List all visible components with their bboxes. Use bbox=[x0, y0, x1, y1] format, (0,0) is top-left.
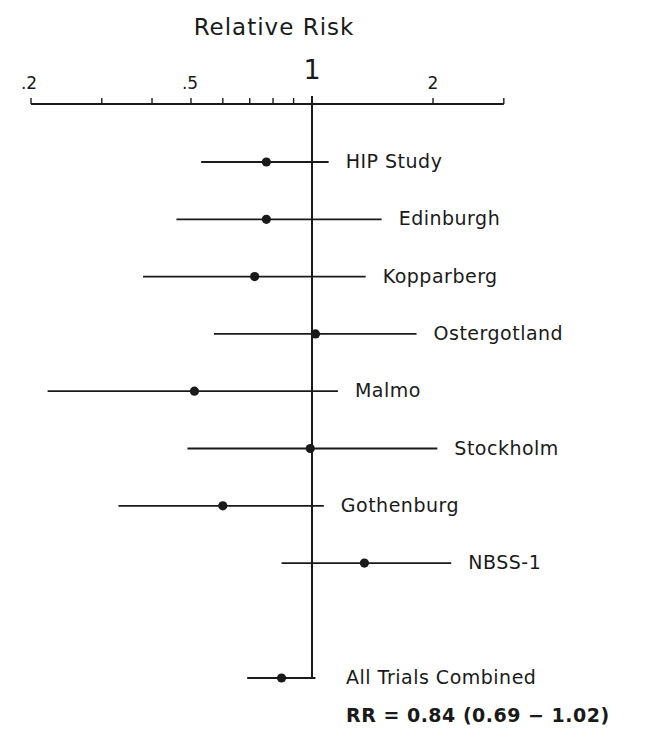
study-label: Malmo bbox=[355, 379, 421, 401]
study-label: Stockholm bbox=[454, 436, 559, 458]
summary-label: All Trials Combined bbox=[346, 666, 536, 688]
point-estimate-marker bbox=[262, 157, 271, 166]
study-label: NBSS-1 bbox=[468, 551, 541, 573]
point-estimate-marker bbox=[262, 215, 271, 224]
study-label: Kopparberg bbox=[383, 264, 498, 286]
point-estimate-marker bbox=[250, 272, 259, 281]
point-estimate-marker bbox=[306, 444, 315, 453]
study-label: Gothenburg bbox=[341, 494, 459, 516]
point-estimate-marker bbox=[190, 387, 199, 396]
chart-canvas bbox=[0, 0, 658, 741]
point-estimate-marker bbox=[311, 329, 320, 338]
study-label: HIP Study bbox=[346, 150, 443, 172]
summary-annotation: RR = 0.84 (0.69 − 1.02) bbox=[346, 704, 610, 726]
study-label: Ostergotland bbox=[434, 322, 564, 344]
summary-point-marker bbox=[277, 673, 286, 682]
point-estimate-marker bbox=[360, 559, 369, 568]
point-estimate-marker bbox=[218, 501, 227, 510]
study-label: Edinburgh bbox=[399, 207, 501, 229]
